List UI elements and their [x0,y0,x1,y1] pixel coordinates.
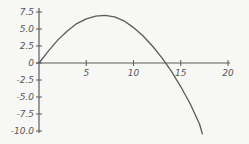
y-tick-label: -2.5 [16,75,34,85]
line-chart: 7.55.02.50-2.5-5.0-7.5-10.05101520 [0,0,249,144]
y-tick-label: 0 [28,58,34,68]
y-tick-label: 2.5 [20,41,35,51]
y-tick-label: -7.5 [16,109,34,119]
y-tick-label: 7.5 [20,7,35,17]
x-tick-label: 15 [175,68,187,78]
x-tick-label: 10 [128,68,140,78]
chart-container: 7.55.02.50-2.5-5.0-7.5-10.05101520 [0,0,249,144]
y-tick-label: 5.0 [20,24,35,34]
x-tick-label: 20 [222,68,234,78]
x-tick-label: 5 [83,68,89,78]
y-tick-label: -10.0 [11,126,35,136]
y-tick-label: -5.0 [16,92,34,102]
